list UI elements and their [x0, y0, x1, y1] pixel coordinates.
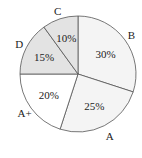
slice-value-label: 10%: [56, 32, 76, 44]
slice-value-label: 30%: [95, 48, 115, 60]
pie-chart-svg: 30%B25%A20%A+15%D10%C: [0, 0, 142, 158]
slice-value-label: 15%: [34, 51, 54, 63]
slice-category-label: A+: [18, 107, 32, 119]
slice-value-label: 25%: [84, 100, 104, 112]
slice-category-label: C: [54, 5, 61, 17]
slice-category-label: A: [106, 130, 114, 142]
slice-category-label: B: [128, 29, 135, 41]
pie-chart: 30%B25%A20%A+15%D10%C: [0, 0, 142, 158]
slice-value-label: 20%: [39, 89, 59, 101]
slice-category-label: D: [15, 38, 23, 50]
